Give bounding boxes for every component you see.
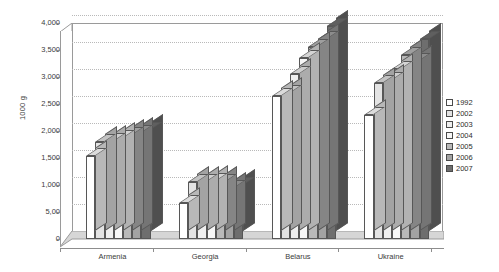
- y-axis-tick-label: 1,000: [18, 181, 60, 189]
- x-axis-category-label: Georgia: [165, 252, 245, 261]
- legend-label: 2003: [456, 121, 473, 129]
- legend-item: 2005: [446, 141, 498, 152]
- bar-chart: 1000 g 4,0003,5003,0002,5002,0001,5001,0…: [0, 0, 499, 272]
- legend-item: 2006: [446, 152, 498, 163]
- bar-front-face: [364, 115, 373, 239]
- bar-side-face: [281, 80, 293, 231]
- legend-item: 1992: [446, 97, 498, 108]
- x-axis-tick: [153, 248, 154, 252]
- legend-swatch-icon: [446, 121, 453, 128]
- x-axis-tick: [246, 248, 247, 252]
- bar-groups: [60, 0, 450, 272]
- y-axis-tick-label: 3,500: [18, 46, 60, 54]
- y-axis-tick-label: 4,000: [18, 19, 60, 27]
- legend-item: 2002: [446, 108, 498, 119]
- legend-swatch-icon: [446, 143, 453, 150]
- legend-label: 1992: [456, 99, 473, 107]
- legend-swatch-icon: [446, 154, 453, 161]
- legend-swatch-icon: [446, 110, 453, 117]
- y-axis-tick-label: 2,500: [18, 100, 60, 108]
- x-axis-line: [60, 248, 444, 249]
- legend-item: 2003: [446, 119, 498, 130]
- legend-item: 2004: [446, 130, 498, 141]
- x-axis-tick: [431, 248, 432, 252]
- legend-label: 2005: [456, 143, 473, 151]
- y-axis-labels: 4,0003,5003,0002,5002,0001,5001,0005,000: [12, 0, 60, 272]
- legend-label: 2007: [456, 165, 473, 173]
- legend: 1992200220032004200520062007: [446, 97, 498, 174]
- y-axis-tick-label: 0: [18, 235, 60, 243]
- legend-item: 2007: [446, 163, 498, 174]
- x-axis-category-label: Armenia: [72, 252, 152, 261]
- y-axis-tick-label: 5,00: [18, 208, 60, 216]
- x-axis-category-label: Belarus: [258, 252, 338, 261]
- legend-label: 2002: [456, 110, 473, 118]
- y-axis-tick-label: 2,000: [18, 127, 60, 135]
- legend-swatch-icon: [446, 165, 453, 172]
- legend-swatch-icon: [446, 132, 453, 139]
- x-axis-category-label: Ukraine: [351, 252, 431, 261]
- x-axis-tick: [60, 248, 61, 252]
- y-axis-tick-label: 3,000: [18, 73, 60, 81]
- y-axis-tick-label: 1,500: [18, 154, 60, 162]
- bar-front-face: [272, 96, 281, 239]
- bar-front-face: [179, 203, 188, 239]
- x-axis-tick: [338, 248, 339, 252]
- bar-front-face: [86, 156, 95, 239]
- legend-label: 2004: [456, 132, 473, 140]
- bar-side-face: [374, 99, 386, 231]
- legend-swatch-icon: [446, 99, 453, 106]
- legend-label: 2006: [456, 154, 473, 162]
